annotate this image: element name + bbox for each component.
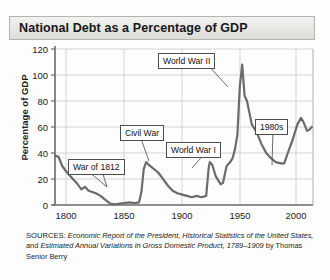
chart-title-bar: National Debt as a Percentage of GDP xyxy=(9,16,315,40)
sources-conjunction: and xyxy=(26,241,40,250)
page-title: National Debt as a Percentage of GDP xyxy=(10,21,248,35)
callout-world-war-ii-label: World War II xyxy=(163,56,210,66)
callout-world-war-i: World War I xyxy=(166,142,221,158)
callout-1980s: 1980s xyxy=(255,119,288,135)
callout-civil-war: Civil War xyxy=(120,125,164,141)
sources-item-2: Estimated Annual Variations in Gross Dom… xyxy=(40,241,263,250)
callout-war-of-1812-label: War of 1812 xyxy=(73,162,120,172)
callout-world-war-i-label: World War I xyxy=(171,145,216,155)
callout-war-of-1812: War of 1812 xyxy=(68,159,125,175)
callout-world-war-ii: World War II xyxy=(158,53,215,69)
chart-figure: National Debt as a Percentage of GDP Per… xyxy=(0,0,330,280)
sources-label: SOURCES: xyxy=(26,231,66,240)
sources-item-1: Economic Report of the President, Histor… xyxy=(68,231,314,240)
plot-area: Percentage of GDP 120 100 80 60 40 20 0 … xyxy=(0,40,330,228)
sources-note: SOURCES: Economic Report of the Presiden… xyxy=(26,231,314,262)
callout-civil-war-label: Civil War xyxy=(125,128,159,138)
callout-1980s-label: 1980s xyxy=(260,122,283,132)
